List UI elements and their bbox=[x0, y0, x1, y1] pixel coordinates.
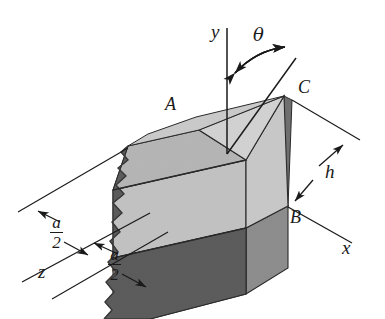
x-axis-label: x bbox=[342, 238, 350, 257]
dim-line-h-upper bbox=[292, 100, 360, 140]
dim-a-upper-denominator: 2 bbox=[50, 233, 63, 251]
dim-a-upper-numerator: a bbox=[50, 214, 63, 232]
arrow-h-lower bbox=[295, 180, 313, 201]
point-a-label: A bbox=[165, 95, 176, 113]
solid-body bbox=[104, 96, 292, 319]
theta-arc-arrow-head-left bbox=[235, 47, 285, 73]
z-axis-label: z bbox=[38, 262, 45, 281]
wedge-solid-diagram bbox=[0, 0, 385, 319]
theta-angle-label: θ bbox=[253, 26, 264, 44]
point-c-label: C bbox=[298, 78, 310, 96]
dim-a-over-2-lower: a 2 bbox=[108, 246, 121, 283]
dim-a-lower-denominator: 2 bbox=[108, 265, 121, 283]
dim-a-over-2-upper: a 2 bbox=[50, 214, 63, 251]
figure-canvas: y x z θ A B C h a 2 a 2 bbox=[0, 0, 385, 319]
dim-a-lower-numerator: a bbox=[108, 246, 121, 264]
theta-arc-arrow-head-right bbox=[235, 47, 285, 73]
y-axis-label: y bbox=[211, 22, 219, 41]
dim-h-label: h bbox=[325, 162, 335, 181]
theta-arc-arrow bbox=[235, 47, 285, 73]
dim-line-upper-z bbox=[18, 148, 128, 212]
point-b-label: B bbox=[290, 208, 301, 226]
